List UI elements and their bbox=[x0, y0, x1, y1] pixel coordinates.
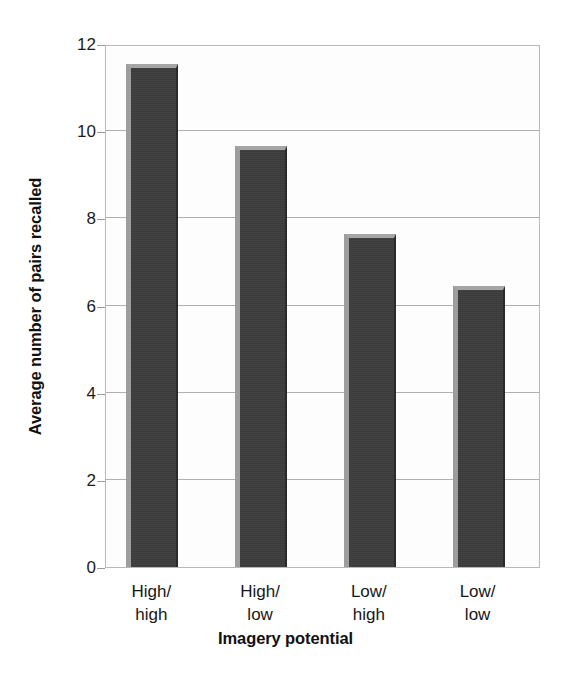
bar-texture bbox=[240, 150, 285, 567]
bar-texture bbox=[349, 238, 394, 567]
x-axis-tick-label: High/ low bbox=[240, 580, 280, 626]
y-axis-tick-mark bbox=[97, 568, 105, 569]
y-axis-tick-label: 12 bbox=[58, 35, 96, 55]
x-axis-tick-label: High/ high bbox=[132, 580, 172, 626]
bar bbox=[344, 234, 396, 567]
x-axis-title: Imagery potential bbox=[0, 629, 571, 648]
y-axis-tick-mark bbox=[97, 481, 105, 482]
bar bbox=[126, 64, 178, 567]
y-axis-tick-mark bbox=[97, 45, 105, 46]
bar bbox=[453, 286, 505, 567]
y-axis-tick-mark bbox=[97, 219, 105, 220]
y-axis-tick-label: 2 bbox=[58, 471, 96, 491]
y-axis-tick-mark bbox=[97, 132, 105, 133]
y-axis-tick-label: 10 bbox=[58, 122, 96, 142]
x-axis-tick-label: Low/ low bbox=[460, 580, 496, 626]
x-axis-tick-label: Low/ high bbox=[351, 580, 387, 626]
y-axis-tick-mark bbox=[97, 394, 105, 395]
bar bbox=[235, 146, 287, 567]
y-axis-tick-label: 8 bbox=[58, 209, 96, 229]
plot-area bbox=[105, 45, 540, 568]
bar-texture bbox=[131, 68, 176, 567]
y-axis-tick-mark bbox=[97, 307, 105, 308]
y-axis-tick-label: 4 bbox=[58, 384, 96, 404]
y-axis-tick-label: 0 bbox=[58, 558, 96, 578]
bar-chart-figure: Average number of pairs recalled 0246810… bbox=[0, 0, 571, 685]
y-axis-tick-label: 6 bbox=[58, 297, 96, 317]
y-axis-title: Average number of pairs recalled bbox=[22, 45, 48, 568]
bar-texture bbox=[458, 290, 503, 567]
